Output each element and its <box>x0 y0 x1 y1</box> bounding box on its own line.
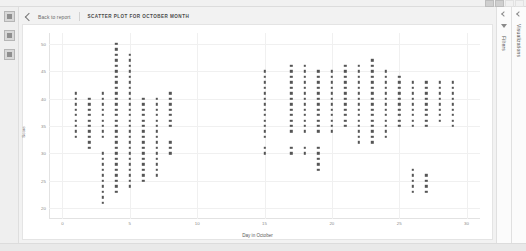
scatter-point[interactable] <box>344 65 346 67</box>
scatter-point[interactable] <box>129 97 131 99</box>
scatter-point[interactable] <box>102 196 104 198</box>
scatter-point[interactable] <box>358 136 360 138</box>
scatter-point[interactable] <box>304 119 306 121</box>
scatter-point[interactable] <box>438 92 440 94</box>
scatter-point[interactable] <box>115 158 117 160</box>
scatter-point[interactable] <box>438 114 440 116</box>
scatter-point[interactable] <box>371 76 373 78</box>
scatter-point[interactable] <box>371 136 373 138</box>
scatter-point[interactable] <box>331 125 333 127</box>
scatter-point[interactable] <box>358 81 360 83</box>
scatter-point[interactable] <box>115 92 117 94</box>
scatter-point[interactable] <box>358 130 360 132</box>
scatter-point[interactable] <box>438 108 440 110</box>
scatter-point[interactable] <box>304 92 306 94</box>
scatter-point[interactable] <box>88 119 90 121</box>
scatter-point[interactable] <box>129 54 131 56</box>
scatter-point[interactable] <box>169 92 171 94</box>
scatter-point[interactable] <box>411 114 413 116</box>
scatter-point[interactable] <box>398 103 400 105</box>
scatter-point[interactable] <box>169 108 171 110</box>
scatter-point[interactable] <box>115 125 117 127</box>
scatter-point[interactable] <box>156 103 158 105</box>
scatter-point[interactable] <box>304 65 306 67</box>
scatter-point[interactable] <box>385 97 387 99</box>
scatter-point[interactable] <box>331 130 333 132</box>
scatter-point[interactable] <box>142 103 144 105</box>
scatter-point[interactable] <box>156 152 158 154</box>
scatter-point[interactable] <box>156 169 158 171</box>
scatter-point[interactable] <box>452 125 454 127</box>
scatter-point[interactable] <box>290 108 292 110</box>
scatter-point[interactable] <box>411 81 413 83</box>
maximize-button[interactable] <box>495 0 504 7</box>
scatter-point[interactable] <box>263 76 265 78</box>
scatter-point[interactable] <box>142 130 144 132</box>
scatter-point[interactable] <box>75 119 77 121</box>
scatter-point[interactable] <box>398 119 400 121</box>
scatter-point[interactable] <box>115 108 117 110</box>
scatter-point[interactable] <box>88 103 90 105</box>
restore-button[interactable] <box>505 0 514 7</box>
scatter-point[interactable] <box>358 65 360 67</box>
scatter-point[interactable] <box>398 81 400 83</box>
scatter-point[interactable] <box>304 130 306 132</box>
scatter-point[interactable] <box>156 97 158 99</box>
scatter-point[interactable] <box>371 65 373 67</box>
scatter-point[interactable] <box>344 97 346 99</box>
scatter-point[interactable] <box>317 125 319 127</box>
scatter-point[interactable] <box>385 114 387 116</box>
scatter-point[interactable] <box>371 125 373 127</box>
scatter-point[interactable] <box>88 108 90 110</box>
scatter-point[interactable] <box>385 125 387 127</box>
scatter-point[interactable] <box>129 119 131 121</box>
scatter-point[interactable] <box>115 43 117 45</box>
scatter-point[interactable] <box>142 108 144 110</box>
scatter-point[interactable] <box>344 114 346 116</box>
scatter-point[interactable] <box>169 147 171 149</box>
scatter-point[interactable] <box>398 97 400 99</box>
scatter-point[interactable] <box>129 103 131 105</box>
scatter-point[interactable] <box>438 81 440 83</box>
scatter-point[interactable] <box>438 119 440 121</box>
scatter-point[interactable] <box>156 130 158 132</box>
scatter-point[interactable] <box>156 163 158 165</box>
scatter-point[interactable] <box>452 97 454 99</box>
scatter-point[interactable] <box>169 125 171 127</box>
scatter-point[interactable] <box>115 190 117 192</box>
expand-chevron-icon[interactable] <box>501 11 507 17</box>
scatter-point[interactable] <box>385 103 387 105</box>
scatter-point[interactable] <box>304 152 306 154</box>
scatter-point[interactable] <box>317 87 319 89</box>
scatter-point[interactable] <box>304 125 306 127</box>
scatter-point[interactable] <box>344 92 346 94</box>
data-view-icon[interactable] <box>4 30 15 41</box>
scatter-point[interactable] <box>385 136 387 138</box>
scatter-point[interactable] <box>129 70 131 72</box>
scatter-point[interactable] <box>115 180 117 182</box>
scatter-point[interactable] <box>156 147 158 149</box>
scatter-point[interactable] <box>385 92 387 94</box>
report-view-icon[interactable] <box>4 11 15 22</box>
scatter-point[interactable] <box>452 114 454 116</box>
scatter-point[interactable] <box>129 185 131 187</box>
scatter-point[interactable] <box>425 119 427 121</box>
scatter-point[interactable] <box>304 81 306 83</box>
scatter-point[interactable] <box>142 141 144 143</box>
scatter-point[interactable] <box>75 92 77 94</box>
scatter-point[interactable] <box>156 125 158 127</box>
scatter-point[interactable] <box>290 81 292 83</box>
scatter-point[interactable] <box>425 180 427 182</box>
scatter-point[interactable] <box>331 87 333 89</box>
scatter-point[interactable] <box>411 169 413 171</box>
scatter-point[interactable] <box>425 174 427 176</box>
scatter-point[interactable] <box>290 114 292 116</box>
scatter-point[interactable] <box>290 130 292 132</box>
scatter-point[interactable] <box>290 92 292 94</box>
scatter-point[interactable] <box>371 92 373 94</box>
scatter-point[interactable] <box>156 158 158 160</box>
scatter-point[interactable] <box>358 119 360 121</box>
scatter-point[interactable] <box>452 81 454 83</box>
scatter-point[interactable] <box>331 108 333 110</box>
scatter-point[interactable] <box>358 70 360 72</box>
